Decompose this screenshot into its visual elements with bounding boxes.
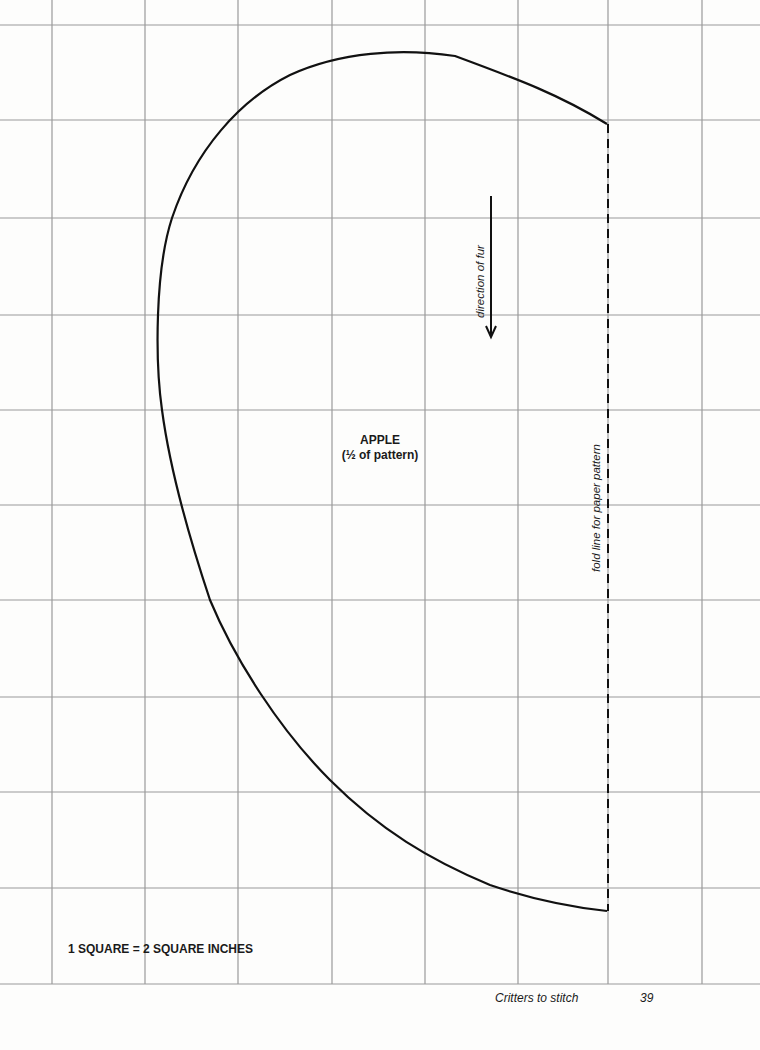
arrow-down-icon	[486, 196, 496, 337]
footer-book-title: Critters to stitch	[495, 991, 578, 1005]
pattern-title: APPLE (½ of pattern)	[310, 433, 450, 463]
grid	[0, 0, 760, 984]
pattern-sheet	[0, 0, 760, 1050]
direction-label: direction of fur	[474, 245, 486, 318]
apple-outline	[158, 52, 607, 911]
scale-note: 1 SQUARE = 2 SQUARE INCHES	[68, 942, 253, 956]
pattern-name: APPLE	[310, 433, 450, 448]
page-number: 39	[640, 991, 653, 1005]
fold-label: fold line for paper pattern	[590, 444, 602, 572]
pattern-subtitle: (½ of pattern)	[310, 448, 450, 463]
